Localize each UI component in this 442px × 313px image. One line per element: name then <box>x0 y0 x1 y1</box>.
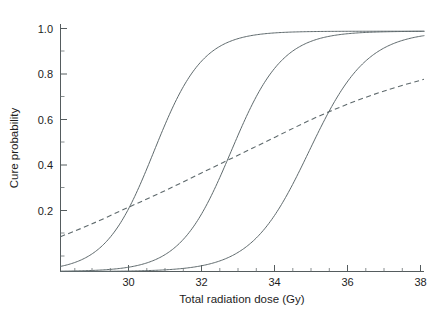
curve-sigmoid-3 <box>61 36 425 272</box>
plot-svg: 1.0 0.8 0.6 0.4 0.2 <box>0 0 442 313</box>
y-axis-major-ticks <box>61 29 68 211</box>
axis-lines <box>61 24 425 272</box>
x-tick-label-38: 38 <box>414 276 426 288</box>
x-axis-title: Total radiation dose (Gy) <box>179 293 304 305</box>
x-axis-tick-labels: 30 32 34 36 38 <box>122 276 426 288</box>
x-axis-major-ticks <box>129 265 421 272</box>
x-tick-label-34: 34 <box>268 276 280 288</box>
y-axis-minor-ticks <box>61 51 65 256</box>
curve-dashed-reference <box>61 79 425 236</box>
curve-sigmoid-2 <box>61 31 425 271</box>
y-tick-label-0_4: 0.4 <box>38 159 53 171</box>
x-tick-label-36: 36 <box>341 276 353 288</box>
chart-figure: 1.0 0.8 0.6 0.4 0.2 <box>0 0 442 313</box>
y-tick-label-1_0: 1.0 <box>38 23 53 35</box>
curve-sigmoid-1 <box>61 31 425 266</box>
x-tick-label-32: 32 <box>195 276 207 288</box>
y-tick-label-0_8: 0.8 <box>38 68 53 80</box>
x-tick-label-30: 30 <box>122 276 134 288</box>
data-curves <box>61 31 425 271</box>
y-tick-label-0_6: 0.6 <box>38 114 53 126</box>
y-tick-label-0_2: 0.2 <box>38 205 53 217</box>
y-axis-title: Cure probability <box>8 107 20 188</box>
y-axis-tick-labels: 1.0 0.8 0.6 0.4 0.2 <box>38 23 53 217</box>
